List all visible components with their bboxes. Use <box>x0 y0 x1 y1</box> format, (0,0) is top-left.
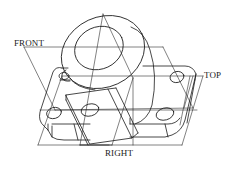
base-plate <box>40 66 197 140</box>
boss-outer-edge <box>49 2 157 102</box>
front-label: FRONT <box>14 39 44 48</box>
cylindrical-boss <box>49 2 157 124</box>
top-label: TOP <box>204 71 221 80</box>
right-label: RIGHT <box>105 149 133 158</box>
part-drawing-svg <box>0 0 232 169</box>
isometric-drawing: FRONT TOP RIGHT <box>0 0 232 169</box>
hole-back-right <box>169 70 185 84</box>
